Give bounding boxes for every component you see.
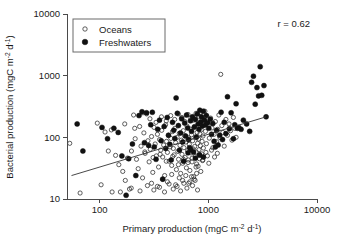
data-point (219, 110, 224, 115)
data-point (100, 125, 105, 130)
data-point (155, 127, 160, 132)
data-point (116, 130, 121, 135)
y-axis-title-mid: d (4, 44, 15, 52)
x-axis-title: Primary production (mgC m-2 d-1) (123, 223, 262, 235)
data-point (170, 120, 175, 125)
data-point (261, 83, 266, 88)
data-point (223, 131, 228, 136)
data-point (111, 126, 116, 131)
legend-label-freshwaters: Freshwaters (99, 37, 152, 48)
data-point (204, 113, 209, 118)
y-tick-label: 1000 (39, 70, 60, 81)
data-point (254, 85, 259, 90)
data-point (75, 121, 80, 126)
data-point (235, 126, 240, 131)
data-point (247, 129, 252, 134)
data-point (162, 124, 167, 129)
data-point (130, 141, 135, 146)
data-point (177, 148, 182, 153)
data-point (231, 136, 236, 141)
x-axis-title-main: Primary production (mgC m (123, 223, 239, 234)
data-point (152, 144, 157, 149)
data-point (225, 94, 230, 99)
data-point (193, 117, 198, 122)
data-point (220, 137, 225, 142)
data-point (166, 133, 171, 138)
data-point (212, 139, 217, 144)
legend-label-oceans: Oceans (99, 24, 132, 35)
data-point (184, 113, 189, 118)
x-tick-label: 100 (92, 204, 108, 215)
data-point (144, 110, 149, 115)
y-axis-title: Bacterial production (mgC m-2 d-1) (4, 35, 16, 178)
data-point (133, 173, 138, 178)
data-point (249, 80, 254, 85)
data-point (216, 143, 221, 148)
data-point (229, 110, 234, 115)
data-point (105, 136, 110, 141)
y-tick-label: 10000 (34, 8, 60, 19)
data-point (169, 157, 174, 162)
data-point (189, 129, 194, 134)
data-point (253, 102, 258, 107)
scatter-plot: 10010001000010100100010000 Oceans Freshw… (0, 0, 338, 243)
data-point (174, 95, 179, 100)
data-point (159, 138, 164, 143)
data-point (154, 157, 159, 162)
x-axis-title-end: ) (258, 223, 261, 234)
data-point (251, 74, 256, 79)
data-point (80, 149, 85, 154)
data-point (217, 133, 222, 138)
data-point (201, 154, 206, 159)
correlation-annotation: r = 0.62 (278, 18, 310, 29)
data-point (139, 109, 144, 114)
figure-container: 10010001000010100100010000 Oceans Freshw… (0, 0, 338, 243)
data-point (201, 109, 206, 114)
y-tick-label: 100 (44, 132, 60, 143)
legend-marker-freshwaters (82, 39, 88, 45)
data-point (210, 121, 215, 126)
data-point (178, 130, 183, 135)
data-point (222, 120, 227, 125)
y-tick-label: 10 (49, 193, 60, 204)
data-point (182, 121, 187, 126)
data-point (234, 101, 239, 106)
data-point (160, 177, 165, 182)
data-point (124, 193, 129, 198)
x-tick-label: 1000 (198, 204, 219, 215)
svg-text:Primary production (mgC m-2 d-: Primary production (mgC m-2 d-1) (123, 223, 262, 235)
data-point (206, 126, 211, 131)
y-axis-title-main: Bacterial production (mgC m (4, 58, 15, 178)
data-point (172, 136, 177, 141)
data-point (171, 128, 176, 133)
data-point (193, 156, 198, 161)
data-point (119, 153, 124, 158)
data-point (176, 123, 181, 128)
legend: Oceans Freshwaters (73, 19, 165, 52)
x-tick-label: 10000 (304, 204, 330, 215)
data-point (188, 147, 193, 152)
data-point (259, 93, 264, 98)
data-point (157, 118, 162, 123)
data-point (150, 110, 155, 115)
data-point (175, 111, 180, 116)
y-axis-title-end: ) (4, 35, 15, 38)
data-point (179, 116, 184, 121)
svg-text:Bacterial production (mgC m-2: Bacterial production (mgC m-2 d-1) (4, 35, 16, 178)
data-point (146, 143, 151, 148)
data-point (181, 159, 186, 164)
data-point (148, 122, 153, 127)
data-point (165, 115, 170, 120)
data-point (258, 64, 263, 69)
x-axis-title-mid: d (245, 223, 253, 234)
